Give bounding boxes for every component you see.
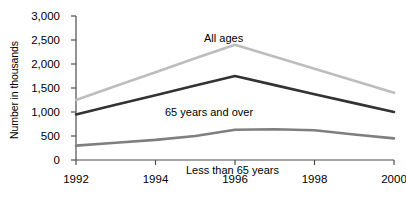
series-line-2 — [76, 129, 394, 145]
series-annotation-label: Less than 65 years — [186, 164, 279, 176]
x-axis-tick-label: 1994 — [143, 173, 169, 185]
x-axis-tick-label: 2000 — [381, 173, 406, 185]
series-annotation-label: 65 years and over — [165, 106, 253, 118]
x-axis-tick-label: 1992 — [63, 173, 89, 185]
y-axis-ticks — [71, 16, 76, 160]
x-axis-tick-label: 1998 — [302, 173, 328, 185]
line-chart: Number in thousands 05001,0001,5002,0002… — [0, 0, 406, 217]
series-annotation-label: All ages — [204, 32, 243, 44]
series-lines — [76, 45, 394, 146]
series-line-0 — [76, 45, 394, 100]
